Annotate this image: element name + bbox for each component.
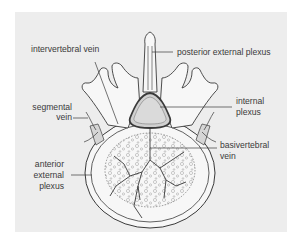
label-segmental-vein-line2: vein	[30, 112, 72, 123]
label-basivertebral-vein-line2: vein	[220, 151, 236, 162]
label-anterior-external-plexus-line3: plexus	[22, 181, 64, 192]
label-anterior-external-plexus-line2: external	[22, 170, 64, 181]
label-internal-plexus-line1: internal	[236, 96, 264, 107]
label-posterior-external-plexus: posterior external plexus	[177, 47, 271, 58]
label-intervertebral-vein: intervertebral vein	[31, 44, 99, 55]
label-internal-plexus-line2: plexus	[236, 107, 261, 118]
vertebra-illustration	[0, 0, 298, 249]
label-basivertebral-vein-line1: basivertebral	[220, 140, 269, 151]
label-anterior-external-plexus-line1: anterior	[22, 159, 64, 170]
label-segmental-vein-line1: segmental	[30, 102, 72, 113]
